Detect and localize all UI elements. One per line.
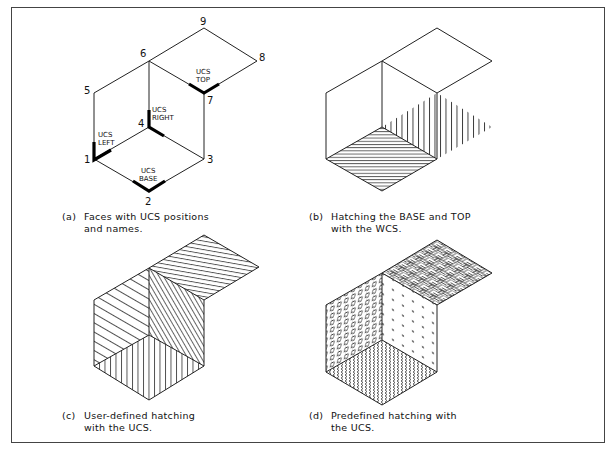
caption-c-line2: with the UCS. [62,422,195,434]
caption-a: (a)Faces with UCS positions and names. [62,211,209,235]
panel-c [94,235,259,400]
ucs-right-label-1: UCS [152,106,167,114]
caption-c-line1: User-defined hatching [84,410,195,421]
vertex-label-7: 7 [207,95,213,106]
vertex-label-5: 5 [84,85,90,96]
caption-d-line1: Predefined hatching with [331,410,457,421]
caption-d: (d)Predefined hatching with the UCS. [309,410,457,434]
caption-d-tag: (d) [309,410,331,422]
vertex-label-8: 8 [259,52,265,63]
vertex-label-4: 4 [138,118,144,129]
caption-c: (c)User-defined hatching with the UCS. [62,410,195,434]
panel-b [326,28,492,191]
caption-a-line1: Faces with UCS positions [84,211,209,222]
vertex-label-9: 9 [200,16,206,27]
ucs-base-label-2: BASE [139,175,157,183]
ucs-left-label-1: UCS [98,131,113,139]
panel-a-edges [94,28,257,191]
ucs-base-label-1: UCS [141,167,156,175]
vertex-label-3: 3 [207,154,213,165]
caption-c-tag: (c) [62,410,84,422]
caption-d-line2: the UCS. [309,422,457,434]
caption-b-line1: Hatching the BASE and TOP [331,211,471,222]
caption-b-tag: (b) [309,211,331,223]
ucs-top-marker [189,84,219,93]
vertex-label-1: 1 [84,154,90,165]
panel-d [326,240,492,405]
ucs-top-label-2: TOP [195,76,210,84]
ucs-left-label-2: LEFT [98,139,115,147]
ucs-right-label-2: RIGHT [152,114,175,122]
caption-b-line2: with the WCS. [309,223,471,235]
vertex-label-2: 2 [145,196,151,207]
vertex-label-6: 6 [140,48,146,59]
caption-b: (b)Hatching the BASE and TOP with the WC… [309,211,471,235]
ucs-top-label-1: UCS [196,68,211,76]
caption-a-line2: and names. [62,223,209,235]
panel-a: 1 2 3 4 5 6 7 8 9 UCS LEFT UCS RIGHT UCS… [84,16,265,207]
caption-a-tag: (a) [62,211,84,223]
